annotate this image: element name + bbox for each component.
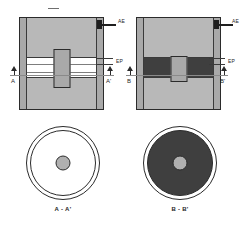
vessel-wall-left — [20, 18, 27, 109]
center-electrode-column-b — [170, 56, 187, 82]
section-hub-aa — [56, 156, 71, 171]
ae-lead-wire-a — [100, 24, 116, 26]
section-view-bb — [143, 126, 217, 200]
cut-line-bb — [126, 75, 228, 76]
ae-label-a: AE — [118, 18, 125, 24]
section-caption-aa: A - A' — [26, 205, 100, 213]
cut-arrow-head-a-prime — [107, 66, 113, 71]
ep-label-b: EP — [228, 58, 235, 64]
ep-leader-upper-a — [97, 58, 113, 59]
cut-line-aa — [10, 75, 114, 76]
figure-root: AE EP A A' AE EP B B' A - A' — [0, 0, 240, 226]
cross-section-view-a — [19, 17, 104, 110]
cut-label-b-prime: B' — [220, 78, 225, 85]
cut-arrow-head-a — [11, 66, 17, 71]
cut-label-a: A — [11, 78, 15, 85]
vessel-wall-left-b — [137, 18, 144, 109]
ep-leader-lower-a — [97, 64, 113, 65]
ae-lead-wire-b — [217, 24, 233, 26]
section-view-aa — [26, 126, 100, 200]
top-scale-tick — [48, 8, 59, 9]
cut-arrow-head-b — [127, 66, 133, 71]
cut-label-b: B — [127, 78, 131, 85]
ae-label-b: AE — [232, 18, 239, 24]
ep-leader-lower-b — [209, 64, 225, 65]
center-electrode-column — [53, 49, 70, 88]
section-hub-bb — [173, 156, 188, 171]
ep-label-a: EP — [116, 58, 123, 64]
core-upper-block-b — [144, 18, 213, 58]
ep-leader-upper-b — [209, 58, 225, 59]
cut-label-a-prime: A' — [106, 78, 111, 85]
cut-arrow-head-b-prime — [221, 66, 227, 71]
section-caption-bb: B - B' — [143, 205, 217, 213]
